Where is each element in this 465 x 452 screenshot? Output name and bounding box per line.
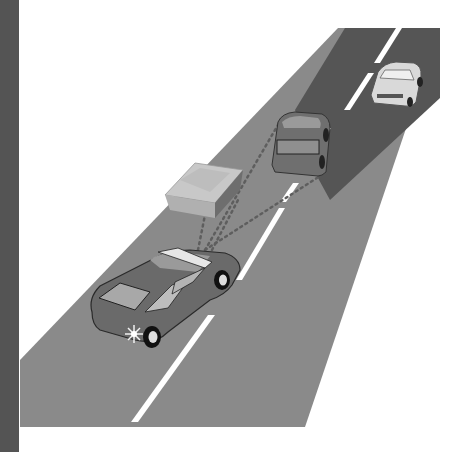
road-scene [0,0,465,452]
lead-vehicle [272,112,330,176]
